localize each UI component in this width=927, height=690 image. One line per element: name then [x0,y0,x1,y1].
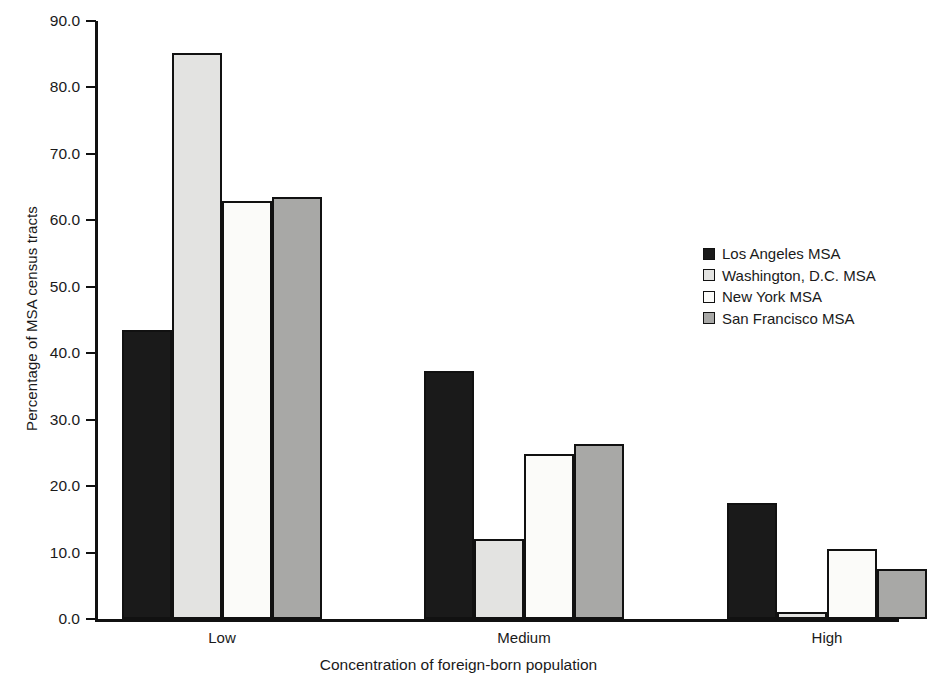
x-axis-line [95,619,899,622]
legend-swatch-icon [703,312,715,324]
legend-swatch-icon [703,248,715,260]
legend-swatch-icon [703,269,715,281]
bar-medium-series-1 [474,539,524,619]
x-axis-title: Concentration of foreign-born population [0,656,917,674]
bar-high-series-3 [877,569,927,619]
legend-item: Los Angeles MSA [703,243,876,265]
legend-item: New York MSA [703,286,876,308]
legend-label: Los Angeles MSA [722,246,840,261]
y-axis-tick-label: 70.0 [16,145,80,163]
y-axis-tick [86,352,96,354]
x-axis-label-high: High [812,629,843,646]
bar-low-series-1 [172,53,222,619]
y-axis-tick [86,219,96,221]
y-axis-tick [86,485,96,487]
bar-low-series-3 [272,197,322,619]
bar-low-series-0 [122,330,172,619]
y-axis-tick-label: 90.0 [16,12,80,30]
bar-high-series-0 [727,503,777,619]
bar-high-series-1 [777,612,827,619]
bar-medium-series-2 [524,454,574,619]
legend-item: Washington, D.C. MSA [703,265,876,287]
y-axis-tick-label: 60.0 [16,211,80,229]
y-axis-tick-label: 80.0 [16,78,80,96]
y-axis-title: Percentage of MSA census tracts [23,154,40,484]
y-axis-tick-label: 50.0 [16,278,80,296]
y-axis-tick-label: 20.0 [16,477,80,495]
legend-label: San Francisco MSA [722,311,855,326]
legend-label: Washington, D.C. MSA [722,268,876,283]
y-axis-tick-label: 40.0 [16,344,80,362]
legend-swatch-icon [703,291,715,303]
bar-medium-series-3 [574,444,624,619]
y-axis-tick [86,86,96,88]
y-axis-line [95,21,98,620]
y-axis-tick-label: 10.0 [16,544,80,562]
legend: Los Angeles MSAWashington, D.C. MSANew Y… [703,243,876,329]
bar-low-series-2 [222,201,272,619]
legend-item: San Francisco MSA [703,308,876,330]
x-axis-label-medium: Medium [497,629,550,646]
bar-medium-series-0 [424,371,474,619]
bar-high-series-2 [827,549,877,619]
x-axis-label-low: Low [208,629,236,646]
legend-label: New York MSA [722,289,822,304]
y-axis-tick [86,20,96,22]
y-axis-tick [86,153,96,155]
y-axis-tick [86,286,96,288]
y-axis-tick [86,552,96,554]
y-axis-tick-label: 30.0 [16,411,80,429]
y-axis-tick [86,419,96,421]
y-axis-tick-label: 0.0 [16,610,80,628]
